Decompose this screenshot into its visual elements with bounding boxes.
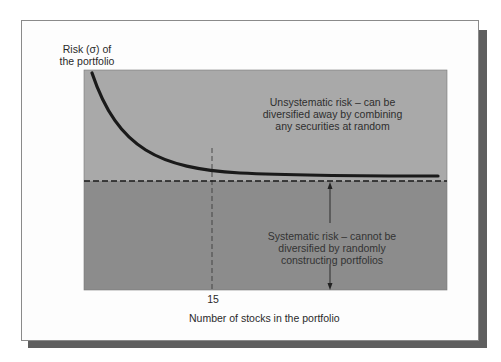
unsystematic-line2: diversified away by combining: [250, 108, 415, 120]
systematic-risk-annotation: Systematic risk – cannot be diversified …: [252, 230, 412, 266]
x-axis-label: Number of stocks in the portfolio: [180, 312, 399, 324]
systematic-line1: Systematic risk – cannot be: [252, 230, 412, 242]
unsystematic-line1: Unsystematic risk – can be: [250, 96, 415, 108]
systematic-line3: constructing portfolios: [252, 254, 412, 266]
unsystematic-line3: any securities at random: [250, 120, 415, 132]
x-tick-15: 15: [204, 293, 222, 305]
y-axis-label: Risk (σ) of the portfolio: [52, 43, 122, 67]
y-axis-label-line2: the portfolio: [52, 55, 122, 67]
unsystematic-risk-annotation: Unsystematic risk – can be diversified a…: [250, 96, 415, 132]
systematic-line2: diversified by randomly: [252, 242, 412, 254]
y-axis-label-line1: Risk (σ) of: [52, 43, 122, 55]
